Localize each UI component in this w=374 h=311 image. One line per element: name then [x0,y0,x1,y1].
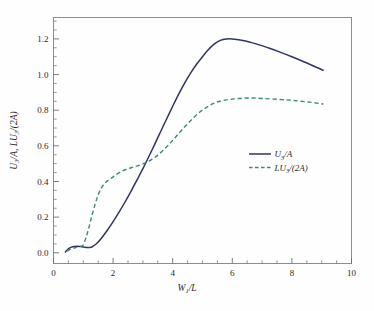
y-tick-label: 0.0 [37,248,49,258]
x-tick-label: 2 [111,268,116,278]
x-tick-label: 10 [347,268,357,278]
y-tick-label: 0.8 [37,105,49,115]
axes-layer: 02468100.00.20.40.60.81.01.2W1/LU3/A, LU… [9,18,357,294]
legend-label-2[interactable]: LU3/(2A) [274,163,308,174]
x-tick-label: 6 [230,268,235,278]
legend-layer[interactable]: U3/ALU3/(2A) [249,149,308,174]
y-tick-label: 1.2 [37,34,48,44]
x-axis-title: W1/L [178,283,197,294]
x-tick-label: 4 [170,268,175,278]
plot-frame [54,18,352,264]
legend-label-1[interactable]: U3/A [275,149,293,160]
series-line-1 [65,39,323,252]
chart-figure: 02468100.00.20.40.60.81.01.2W1/LU3/A, LU… [0,0,374,311]
y-tick-label: 0.6 [37,141,49,151]
x-tick-label: 0 [51,268,56,278]
series-line-2 [67,98,323,251]
x-tick-label: 8 [290,268,295,278]
y-tick-label: 0.4 [37,177,49,187]
y-tick-label: 0.2 [37,212,48,222]
chart-canvas: 02468100.00.20.40.60.81.01.2W1/LU3/A, LU… [0,0,374,311]
series-layer [65,39,323,252]
y-tick-label: 1.0 [37,70,49,80]
y-axis-title: U3/A, LU3/(2A) [9,111,20,169]
